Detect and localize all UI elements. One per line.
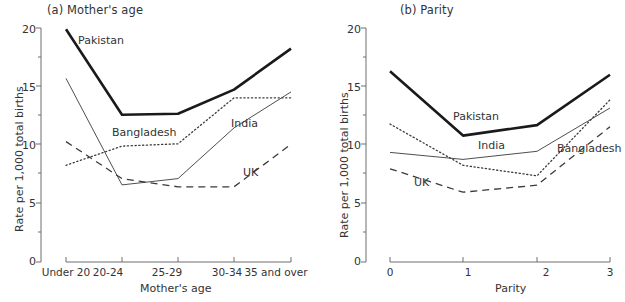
panel-b-series-uk: [390, 127, 610, 193]
panel-b-series-bangladesh: [390, 100, 610, 176]
panel-parity: (b) Parity Rate per 1,000 total births P…: [310, 0, 617, 302]
panel-b-series-pakistan: [390, 71, 610, 135]
panel-b-y-axis: [361, 28, 366, 262]
panel-a-x-axis: [66, 257, 291, 262]
panel-b-plot: [310, 0, 617, 302]
panel-a-series-uk: [66, 142, 291, 187]
panel-a-series-pakistan: [66, 29, 291, 115]
panel-b-x-axis: [390, 257, 610, 262]
panel-mothers-age: (a) Mother's age Rate per 1,000 total bi…: [0, 0, 310, 302]
panel-a-y-axis: [36, 28, 41, 262]
panel-a-plot: [0, 0, 310, 302]
panel-a-series-bangladesh: [66, 98, 291, 166]
